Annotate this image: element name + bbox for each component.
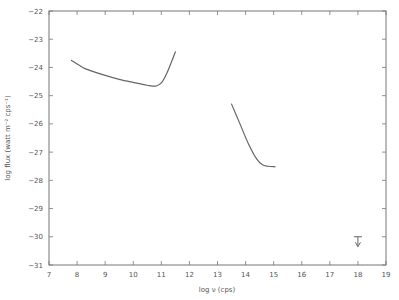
x-tick-label: 8 xyxy=(75,271,79,279)
x-tick-label: 13 xyxy=(213,271,222,279)
x-tick-label: 11 xyxy=(157,271,166,279)
x-tick-label: 18 xyxy=(353,271,362,279)
x-tick-label: 14 xyxy=(241,271,250,279)
y-tick-label: −23 xyxy=(28,36,43,44)
y-tick-label: −25 xyxy=(28,92,43,100)
y-tick-label: −31 xyxy=(28,262,43,270)
data-series xyxy=(71,52,361,247)
y-axis-ticks: −22−23−24−25−26−27−28−29−30−31 xyxy=(28,8,386,270)
y-tick-label: −27 xyxy=(28,149,43,157)
x-tick-label: 17 xyxy=(325,271,334,279)
y-tick-label: −24 xyxy=(28,64,43,72)
x-axis-ticks: 78910111213141516171819 xyxy=(47,11,391,279)
x-tick-label: 9 xyxy=(103,271,107,279)
x-axis-label: log ν (cps) xyxy=(199,286,236,294)
x-tick-label: 16 xyxy=(297,271,306,279)
x-tick-label: 19 xyxy=(382,271,391,279)
x-tick-label: 10 xyxy=(129,271,138,279)
spectrum-curve xyxy=(71,52,175,86)
x-tick-label: 12 xyxy=(185,271,194,279)
x-tick-label: 15 xyxy=(269,271,278,279)
y-tick-label: −28 xyxy=(28,177,43,185)
upper-limit-arrow-icon xyxy=(354,237,362,247)
y-tick-label: −22 xyxy=(28,8,43,16)
spectrum-curve xyxy=(232,104,276,167)
y-tick-label: −29 xyxy=(28,205,43,213)
y-tick-label: −30 xyxy=(28,233,43,241)
plot-frame xyxy=(49,11,386,265)
x-tick-label: 7 xyxy=(47,271,51,279)
y-axis-label: log flux (watt m⁻² cps⁻¹) xyxy=(4,95,12,181)
y-tick-label: −26 xyxy=(28,120,43,128)
chart: 78910111213141516171819 −22−23−24−25−26−… xyxy=(0,0,399,300)
